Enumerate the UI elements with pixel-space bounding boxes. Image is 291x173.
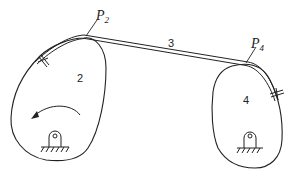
label-p4: P4 [250,36,265,53]
label-body-2: 2 [77,72,83,84]
arrowhead-icon [31,111,39,119]
body-2-outline [11,38,106,161]
label-p4-sub: 4 [260,43,265,53]
ground-pivot-body-4 [237,132,263,153]
diagram-svg: 2 3 4 P2 P4 [0,0,291,173]
label-p2: P2 [95,8,110,25]
mechanism-diagram: 2 3 4 P2 P4 [0,0,291,173]
label-p2-main: P [95,8,105,23]
label-p4-main: P [250,36,260,51]
link-3-band-inner [37,39,275,102]
label-body-4: 4 [243,94,249,106]
label-p2-sub: 2 [105,15,110,25]
label-link-3: 3 [168,37,174,49]
ground-pivot-body-2 [41,131,69,152]
link-3-band-outer [35,35,278,100]
rotation-arrow-icon [34,106,80,116]
